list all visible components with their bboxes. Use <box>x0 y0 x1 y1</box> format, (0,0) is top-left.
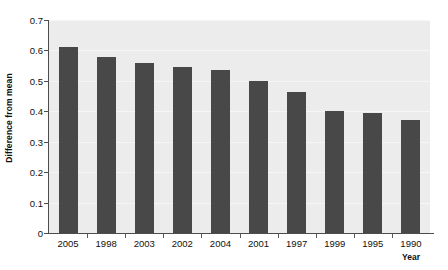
y-axis-tick-label: 0.5 <box>30 75 43 86</box>
x-axis-tick-label: 1997 <box>286 238 307 249</box>
bar <box>401 120 420 233</box>
bar <box>287 92 306 233</box>
y-axis-line <box>48 20 49 234</box>
x-axis-tick-label: 2004 <box>210 238 231 249</box>
x-axis-tick-labels: 2005199820032002200420011997199919951990 <box>49 238 430 253</box>
x-axis-tick-label: 1995 <box>362 238 383 249</box>
bar <box>249 81 268 233</box>
bar <box>363 113 382 233</box>
bar <box>325 111 344 233</box>
bars-layer <box>49 20 430 233</box>
y-axis-tick-label: 0.6 <box>30 45 43 56</box>
y-axis-tick-label: 0.1 <box>30 197 43 208</box>
x-axis-tick-label: 2001 <box>248 238 269 249</box>
x-axis-tick-label: 2005 <box>57 238 78 249</box>
plot-area <box>49 20 430 233</box>
x-axis-tick-label: 2002 <box>172 238 193 249</box>
y-axis-tick-label: 0 <box>38 228 43 239</box>
x-axis-tick-label: 1998 <box>96 238 117 249</box>
y-axis-title: Difference from mean <box>0 0 18 236</box>
x-axis-tick-label: 1999 <box>324 238 345 249</box>
bar <box>97 57 116 233</box>
y-axis-tick-label: 0.7 <box>30 15 43 26</box>
y-axis-tick-label: 0.2 <box>30 167 43 178</box>
y-axis-tick-label: 0.4 <box>30 106 43 117</box>
y-axis-tick-labels: 00.10.20.30.40.50.60.7 <box>18 20 43 233</box>
bar <box>59 47 78 233</box>
bar <box>211 70 230 233</box>
bar <box>173 67 192 233</box>
y-axis-tick-label: 0.3 <box>30 136 43 147</box>
bar <box>135 63 154 233</box>
x-axis-tick-label: 1990 <box>400 238 421 249</box>
x-axis-tick-label: 2003 <box>134 238 155 249</box>
bar-chart-figure: Difference from mean 00.10.20.30.40.50.6… <box>0 0 448 270</box>
x-axis-title: Year <box>380 252 442 262</box>
y-axis-title-label: Difference from mean <box>4 73 14 162</box>
